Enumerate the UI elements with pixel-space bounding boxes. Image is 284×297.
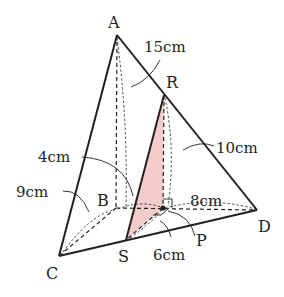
vertex-label-D: D: [258, 217, 271, 236]
vertex-label-R: R: [166, 73, 179, 92]
point-P-dot: [160, 205, 165, 210]
vertex-label-C: C: [46, 264, 58, 283]
pyramid-diagram: A R B C D S P 15cm 10cm 4cm 9cm 8cm 6cm: [0, 0, 284, 297]
vertex-label-S: S: [118, 247, 129, 266]
length-label-6cm: 6cm: [153, 246, 185, 264]
length-label-15cm: 15cm: [144, 38, 186, 56]
length-label-10cm: 10cm: [216, 139, 258, 157]
length-label-8cm: 8cm: [190, 192, 222, 210]
vertex-label-P: P: [196, 231, 207, 250]
length-label-4cm: 4cm: [38, 148, 70, 166]
vertex-label-B: B: [97, 191, 109, 210]
length-label-9cm: 9cm: [16, 183, 48, 201]
vertex-label-A: A: [107, 13, 120, 32]
